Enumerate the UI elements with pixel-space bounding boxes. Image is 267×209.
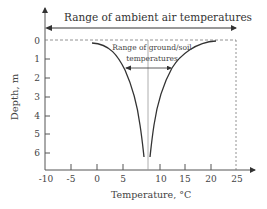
y-ticks <box>45 59 50 153</box>
air-range-label: Range of ambient air temperatures <box>64 12 252 23</box>
x-tick-label: 20 <box>205 175 216 184</box>
y-tick-label: 3 <box>28 93 40 102</box>
y-tick-label: 0 <box>28 37 40 46</box>
soil-range-label-line1: Range of ground/soil <box>112 42 192 53</box>
x-axis-label: Temperature, °C <box>111 190 191 200</box>
x-tick-label: 15 <box>179 175 190 184</box>
x-tick-label: -10 <box>39 175 54 184</box>
x-tick-label: 10 <box>155 175 166 184</box>
x-tick-label: 0 <box>94 175 100 184</box>
soil-range-label-line2: temperatures <box>112 53 192 64</box>
y-tick-label: 1 <box>28 55 40 64</box>
x-tick-label: 5 <box>120 175 126 184</box>
x-tick-label: 25 <box>231 175 242 184</box>
soil-range-label: Range of ground/soil temperatures <box>112 42 192 64</box>
y-tick-label: 5 <box>28 130 40 139</box>
x-ticks <box>71 164 211 170</box>
y-axis-label: Depth, m <box>10 74 20 121</box>
y-tick-label: 6 <box>28 149 40 158</box>
x-tick-label: -5 <box>67 175 76 184</box>
y-tick-label: 2 <box>28 74 40 83</box>
y-tick-label: 4 <box>28 112 40 121</box>
